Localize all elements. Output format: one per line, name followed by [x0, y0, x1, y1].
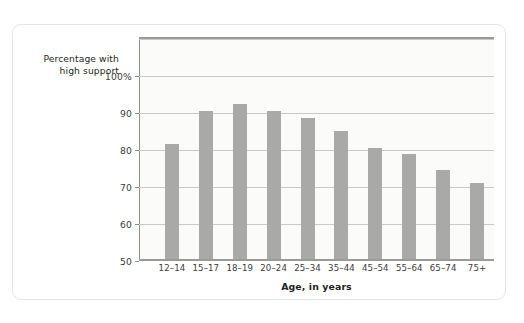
bar [233, 104, 247, 259]
y-axis-tick-mark [135, 261, 139, 262]
x-axis-tick-label: 18–19 [226, 263, 253, 273]
x-axis-tick-label: 35–44 [328, 263, 355, 273]
x-axis-tick-label: 45–54 [362, 263, 389, 273]
bar [301, 118, 315, 259]
gridline-110 [139, 39, 494, 40]
y-axis-tick-mark [135, 187, 139, 188]
gridline-100 [139, 76, 494, 77]
figure-card: Percentage with high support 50607080901… [12, 24, 506, 300]
y-axis-tick-label: 90 [120, 108, 132, 119]
gridline-80 [139, 150, 494, 151]
bar [368, 148, 382, 259]
y-axis-tick-label: 60 [120, 219, 132, 230]
bar [470, 183, 484, 259]
x-axis-tick-label: 65–74 [430, 263, 457, 273]
plot-area: 5060708090100% [139, 37, 494, 259]
x-axis-tick-label: 25–34 [294, 263, 321, 273]
x-axis-tick-labels: 12–1415–1718–1920–2425–3435–4445–5455–64… [139, 263, 494, 277]
x-axis-tick-label: 12–14 [159, 263, 186, 273]
bar [436, 170, 450, 259]
x-axis-tick-label: 20–24 [260, 263, 287, 273]
bar [334, 131, 348, 259]
y-axis-tick-label: 70 [120, 182, 132, 193]
x-axis-tick-label: 15–17 [193, 263, 220, 273]
x-axis-tick-label: 55–64 [396, 263, 423, 273]
y-axis-tick-mark [135, 150, 139, 151]
x-axis-title: Age, in years [139, 281, 494, 292]
gridline-90 [139, 113, 494, 114]
y-axis-tick-mark [135, 76, 139, 77]
x-axis-tick-label: 75+ [468, 263, 486, 273]
y-axis-tick-label: 50 [120, 256, 132, 267]
bar [199, 111, 213, 259]
y-axis-tick-label: 80 [120, 145, 132, 156]
y-axis-tick-mark [135, 113, 139, 114]
y-axis-tick-mark [135, 224, 139, 225]
bar [402, 154, 416, 259]
y-axis-title-line1: Percentage with [43, 53, 119, 64]
plot-inner: 5060708090100% [139, 39, 494, 259]
y-axis-tick-label: 100% [105, 71, 132, 82]
bar [267, 111, 281, 259]
y-axis-line [139, 39, 140, 259]
bar [165, 144, 179, 259]
